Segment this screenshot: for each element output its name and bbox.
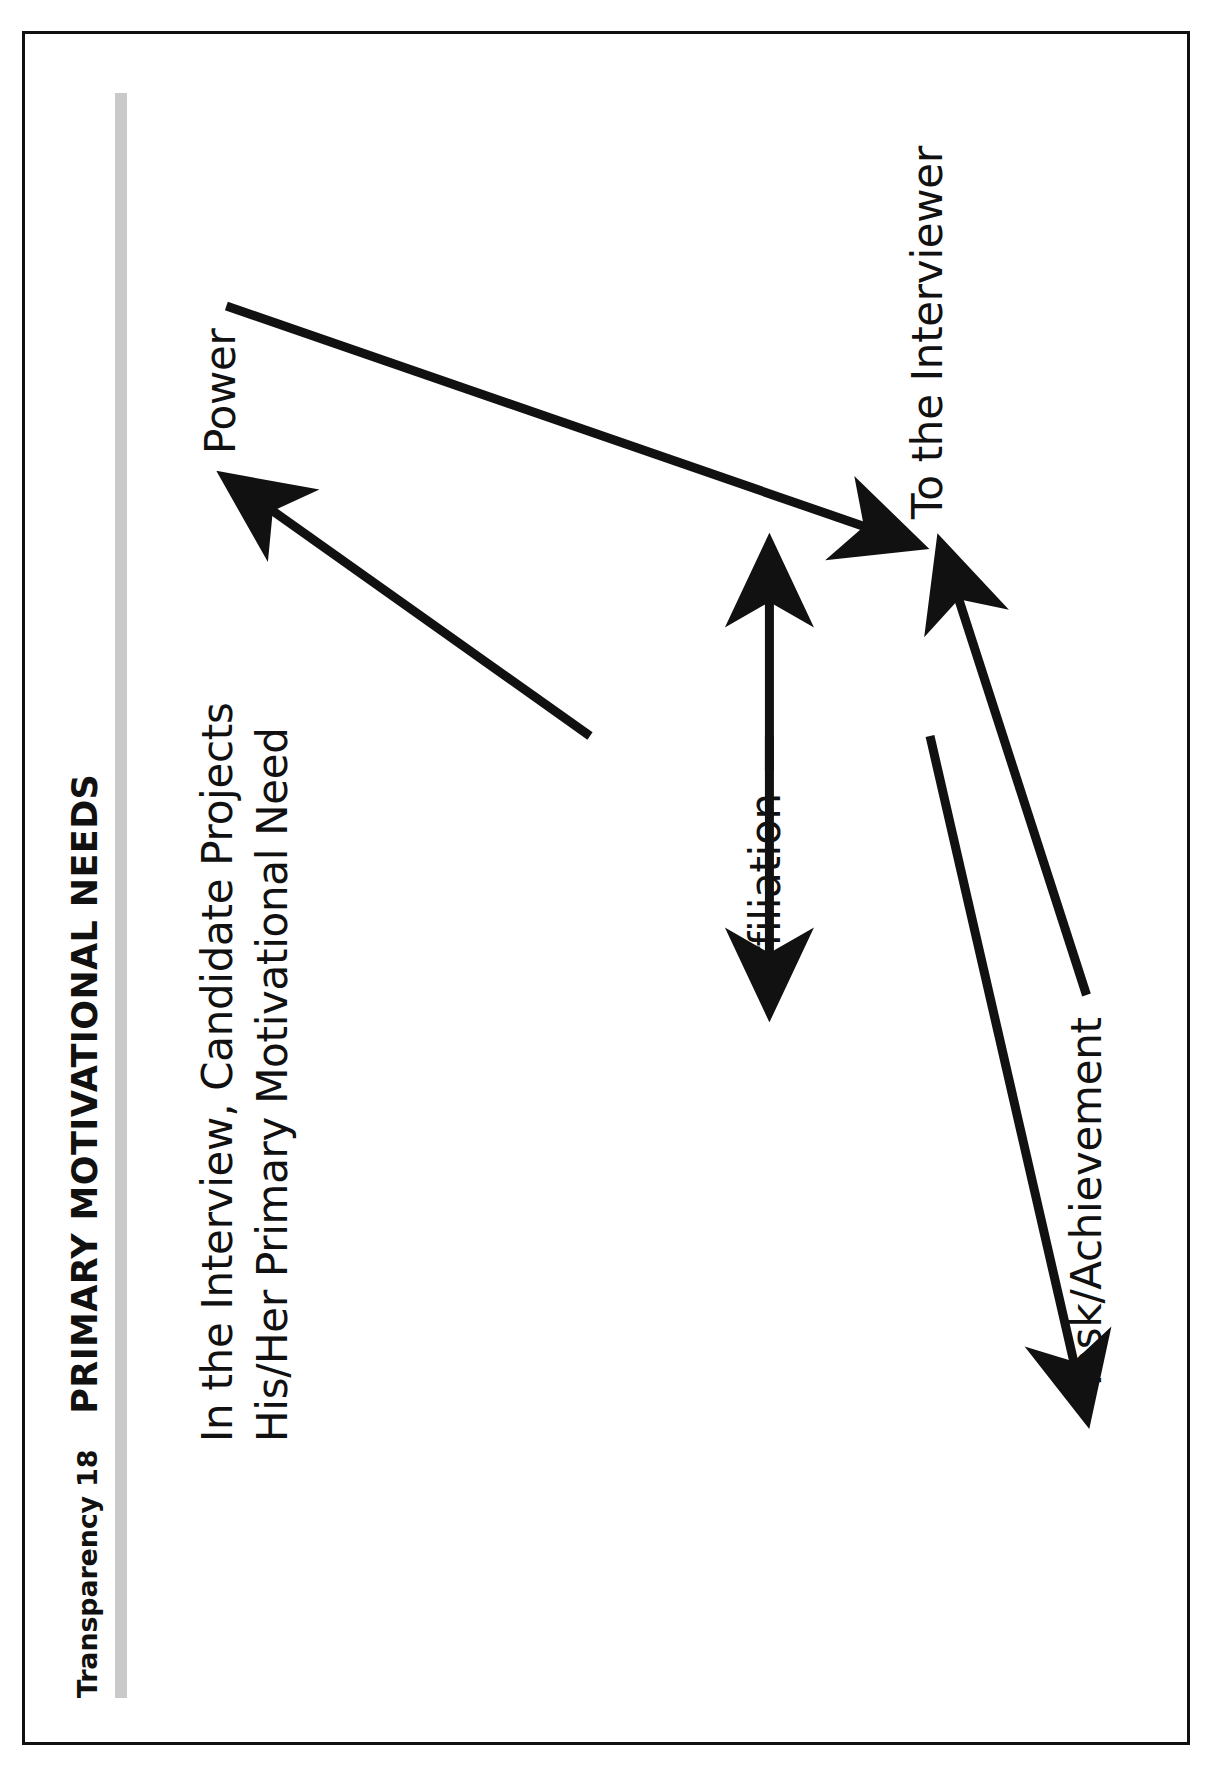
arrow-power-to-target: [226, 306, 917, 545]
arrow-task-to-target: [941, 545, 1086, 995]
node-label-task-achievement: Task/Achievement: [1062, 1017, 1111, 1393]
slide-frame: Transparency 18 PRIMARY MOTIVATIONAL NEE…: [22, 31, 1190, 1745]
node-label-affiliation: Affiliation: [741, 793, 790, 988]
intro-line-1: In the Interview, Candidate Projects: [191, 703, 246, 1442]
node-label-power: Power: [196, 329, 245, 455]
transparency-number-label: Transparency 18: [72, 1450, 103, 1698]
intro-line-2: His/Her Primary Motivational Need: [246, 703, 301, 1442]
header-divider-rule: [115, 93, 127, 1698]
page-title: PRIMARY MOTIVATIONAL NEEDS: [65, 774, 105, 1414]
arrow-source-to-power: [226, 478, 590, 736]
slide-header: Transparency 18 PRIMARY MOTIVATIONAL NEE…: [65, 774, 105, 1698]
intro-text-block: In the Interview, Candidate Projects His…: [191, 703, 300, 1442]
slide-content: Transparency 18 PRIMARY MOTIVATIONAL NEE…: [25, 34, 1187, 1742]
node-label-to-the-interviewer: To the Interviewer: [903, 146, 952, 519]
page-canvas: Transparency 18 PRIMARY MOTIVATIONAL NEE…: [0, 0, 1219, 1780]
